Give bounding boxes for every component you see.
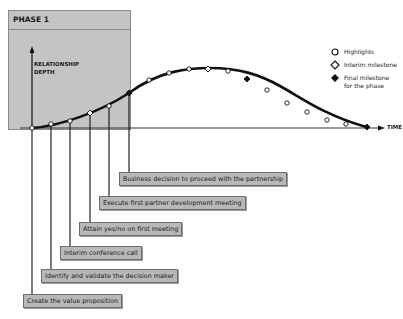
highlight-marker [344,122,348,126]
highlight-marker [285,101,289,105]
highlight-marker [147,78,151,82]
callout-execute-meeting: Execute first partner development meetin… [99,196,246,210]
highlight-marker [167,71,171,75]
open-circle-icon [330,47,340,57]
highlight-marker [187,67,191,71]
highlight-marker [49,122,53,126]
highlight-marker [305,110,309,114]
callout-identify-decision-maker: Identify and validate the decision maker [41,269,178,283]
legend-item-highlights: Highlights [330,47,397,60]
legend-item-final: Final milestone for the phase [330,73,397,91]
highlight-marker [325,118,329,122]
callout-value-proposition: Create the value proposition [23,294,122,308]
highlight-marker [265,88,269,92]
filled-diamond-icon [330,73,340,83]
open-diamond-icon [330,60,340,70]
legend-item-interim: Interim milestone [330,60,397,73]
y-axis-arrow-icon [30,46,35,53]
y-axis-label: RELATIONSHIP DEPTH [34,60,94,76]
relationship-curve [32,68,367,128]
legend: Highlights Interim milestone Final miles… [330,47,397,91]
final-milestone-marker [364,124,370,130]
highlight-marker [68,119,72,123]
callout-attain-yes-no: Attain yes/no on first meeting [79,222,182,236]
x-axis-label: TIME [387,123,402,131]
highlight-marker [226,69,230,73]
callout-interim-call: Interim conference call [60,246,142,260]
callout-leaders [32,93,129,294]
highlight-marker [30,126,34,130]
highlight-marker [107,104,111,108]
callout-business-decision: Business decision to proceed with the pa… [119,172,287,186]
final-milestone-marker [244,76,250,82]
x-axis-arrow-icon [378,126,385,131]
